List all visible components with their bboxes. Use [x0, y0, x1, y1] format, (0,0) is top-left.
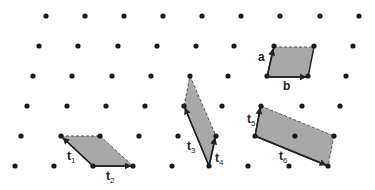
label-t1: t1 [67, 150, 75, 165]
lattice-point [271, 43, 276, 48]
lattice-point [277, 13, 282, 18]
lattice-point [30, 73, 35, 78]
unit-cells [61, 47, 334, 166]
lattice-point [12, 163, 17, 168]
lattice-point [343, 73, 348, 78]
label-t4: t4 [215, 152, 223, 167]
lattice-point [154, 43, 159, 48]
lattice-diagram: abt1t2t3t4t5t6 [0, 0, 375, 190]
lattice-point [51, 163, 56, 168]
lattice-point [115, 43, 120, 48]
lattice-point [258, 103, 263, 108]
lattice-point [97, 133, 102, 138]
lattice-point [219, 103, 224, 108]
lattice-point [187, 73, 192, 78]
lattice-point [121, 13, 126, 18]
lattice-point [299, 103, 304, 108]
cell-ab [267, 47, 314, 77]
label-a: a [258, 51, 265, 63]
lattice-point [245, 163, 250, 168]
lattice-point [181, 103, 186, 108]
lattice-point [292, 133, 297, 138]
lattice-point [311, 43, 316, 48]
lattice-point [64, 103, 69, 108]
lattice-point [305, 73, 310, 78]
lattice-point [109, 73, 114, 78]
lattice-point [160, 13, 165, 18]
lattice-point [213, 133, 218, 138]
lattice-point [231, 43, 236, 48]
lattice-point [130, 163, 135, 168]
lattice-point [58, 133, 63, 138]
lattice-point [148, 73, 153, 78]
label-t6: t6 [279, 150, 287, 165]
lattice-point [69, 73, 74, 78]
lattice-point [337, 103, 342, 108]
lattice-point [356, 13, 361, 18]
lattice-point [175, 133, 180, 138]
lattice-point [325, 163, 330, 168]
lattice-point [75, 43, 80, 48]
lattice-point [331, 133, 336, 138]
lattice-point [142, 103, 147, 108]
lattice-point [350, 43, 355, 48]
cell-fill [267, 47, 314, 77]
label-t3: t3 [187, 140, 195, 155]
label-t2: t2 [106, 170, 114, 185]
lattice-point [225, 73, 230, 78]
lattice-point [82, 13, 87, 18]
lattice-point [43, 13, 48, 18]
lattice-point [136, 133, 141, 138]
lattice-point [193, 43, 198, 48]
lattice-point [18, 133, 23, 138]
lattice-point [103, 103, 108, 108]
lattice-point [317, 13, 322, 18]
lattice-point [199, 13, 204, 18]
lattice-point [24, 103, 29, 108]
lattice-point [36, 43, 41, 48]
label-b: b [283, 80, 290, 92]
lattice-canvas [0, 0, 375, 190]
lattice-point [169, 163, 174, 168]
label-t5: t5 [247, 113, 255, 128]
lattice-point [238, 13, 243, 18]
